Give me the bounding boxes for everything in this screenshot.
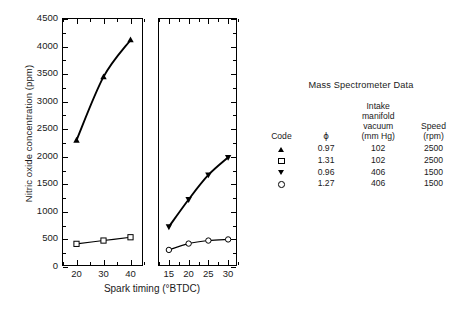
series-line: [169, 239, 228, 249]
open-square-icon: [278, 158, 284, 164]
y-tick-label: 1000: [37, 206, 58, 216]
x-tick-mark: [238, 262, 239, 265]
legend: Mass Spectrometer Data Code ϕ Intake man…: [258, 80, 458, 190]
y-tick-label: 4000: [37, 41, 58, 51]
data-point-marker: [166, 247, 171, 252]
legend-vacuum-value: 102: [347, 143, 409, 155]
legend-header-vacuum: Intake manifold vacuum (mm Hg): [347, 102, 409, 143]
y-tick-label: 2500: [37, 123, 58, 133]
y-tick-label: 3500: [37, 68, 58, 78]
x-tick-label: 20: [183, 269, 194, 279]
y-tick-label: 0: [53, 261, 58, 271]
legend-header-code: Code: [258, 102, 305, 143]
legend-row: 1.274061500: [258, 178, 458, 190]
data-point-marker: [73, 137, 79, 143]
legend-row: 0.964061500: [258, 166, 458, 178]
x-tick-mark: [238, 19, 239, 22]
x-tick-mark: [144, 262, 145, 265]
x-tick-mark: [144, 19, 145, 22]
legend-phi-value: 1.31: [305, 155, 348, 167]
open-circle-icon: [278, 181, 285, 188]
series-layer: [63, 19, 144, 267]
x-tick-label: 40: [125, 269, 136, 279]
x-tick-label: 30: [223, 269, 234, 279]
left-panel-plot-area: [63, 19, 142, 265]
x-tick-label: 15: [164, 269, 175, 279]
legend-speed-value: 2500: [409, 143, 458, 155]
legend-row: 0.971022500: [258, 143, 458, 155]
y-tick-label: 4500: [37, 13, 58, 23]
legend-header-speed-line2: (rpm): [409, 132, 458, 142]
legend-header-vacuum-line4: (mm Hg): [347, 132, 409, 142]
data-point-marker: [74, 241, 79, 246]
legend-table: Code ϕ Intake manifold vacuum (mm Hg) Sp…: [258, 102, 458, 190]
y-tick-label: 2000: [37, 151, 58, 161]
x-tick-label: 20: [71, 269, 82, 279]
series-line: [77, 40, 131, 140]
x-tick-label: 25: [203, 269, 214, 279]
legend-marker-cell: [258, 143, 305, 155]
filled-triangle-up-icon: [278, 147, 284, 152]
legend-marker-cell: [258, 166, 305, 178]
data-point-marker: [166, 224, 172, 230]
legend-speed-value: 1500: [409, 178, 458, 190]
x-axis-title: Spark timing (°BTDC): [42, 283, 262, 294]
legend-header-speed: Speed (rpm): [409, 102, 458, 143]
left-panel: 203040: [62, 18, 143, 266]
filled-triangle-down-icon: [278, 170, 284, 175]
data-point-marker: [225, 237, 230, 242]
legend-speed-value: 2500: [409, 155, 458, 167]
legend-speed-value: 1500: [409, 166, 458, 178]
y-axis-tick-labels: 050010001500200025003000350040004500: [20, 18, 58, 266]
legend-vacuum-value: 406: [347, 166, 409, 178]
figure: Nitric oxide concentration (ppm) 0500100…: [0, 0, 464, 312]
data-point-marker: [186, 241, 191, 246]
legend-header-phi: ϕ: [305, 102, 348, 143]
x-tick-label: 30: [98, 269, 109, 279]
series-layer: [159, 19, 238, 267]
y-tick-label: 500: [42, 234, 58, 244]
legend-row: 1.311022500: [258, 155, 458, 167]
data-point-marker: [101, 238, 106, 243]
legend-marker-cell: [258, 155, 305, 167]
legend-header-row: Code ϕ Intake manifold vacuum (mm Hg) Sp…: [258, 102, 458, 143]
series-line: [169, 157, 228, 226]
legend-phi-value: 1.27: [305, 178, 348, 190]
data-point-marker: [206, 238, 211, 243]
y-tick-label: 3000: [37, 96, 58, 106]
right-panel-plot-area: [159, 19, 236, 265]
legend-marker-cell: [258, 178, 305, 190]
legend-body: 0.9710225001.3110225000.9640615001.27406…: [258, 143, 458, 190]
right-panel: 15202530: [158, 18, 237, 266]
y-tick-label: 1500: [37, 179, 58, 189]
y-tick-mark: [63, 267, 68, 268]
legend-vacuum-value: 102: [347, 155, 409, 167]
data-point-marker: [127, 37, 133, 43]
legend-phi-value: 0.96: [305, 166, 348, 178]
data-point-marker: [128, 235, 133, 240]
legend-phi-value: 0.97: [305, 143, 348, 155]
legend-title: Mass Spectrometer Data: [258, 80, 458, 90]
legend-vacuum-value: 406: [347, 178, 409, 190]
